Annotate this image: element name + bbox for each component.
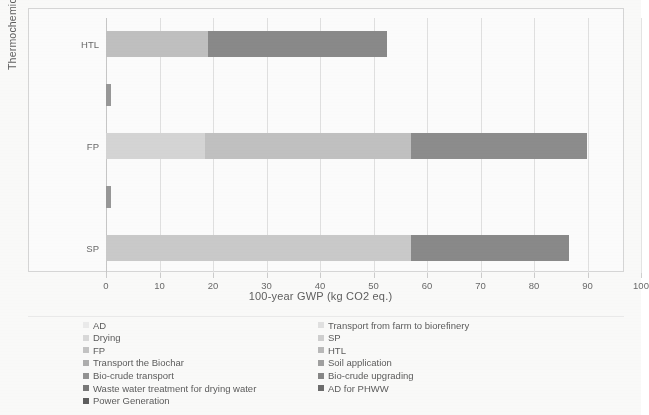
legend-swatch-icon <box>318 373 324 379</box>
y-category-label: SP <box>59 242 99 253</box>
bar-segment <box>205 133 411 159</box>
stacked-bar <box>106 235 569 261</box>
legend-label: Power Generation <box>93 396 170 406</box>
legend-item: Bio-crude transport <box>83 369 256 382</box>
legend-item: Bio-crude upgrading <box>318 369 469 382</box>
legend-item: Waste water treatment for drying water <box>83 382 256 395</box>
legend-label: Transport from farm to biorefinery <box>328 321 469 331</box>
tick-mark <box>641 273 642 278</box>
legend-label: Bio-crude upgrading <box>328 371 414 381</box>
stacked-bar <box>106 31 387 57</box>
legend-item: Transport from farm to biorefinery <box>318 319 469 332</box>
legend-item: HTL <box>318 344 469 357</box>
plot-area: 0102030405060708090100 HTLFPSP <box>106 18 641 273</box>
tick-mark <box>213 273 214 278</box>
y-axis-title: Thermochemical Technology <box>6 0 18 70</box>
legend-label: FP <box>93 346 105 356</box>
legend-item: AD <box>83 319 256 332</box>
bar-segment <box>106 31 208 57</box>
legend-swatch-icon <box>83 360 89 366</box>
legend-column-left: ADDryingFPTransport the BiocharBio-crude… <box>83 319 256 407</box>
legend-swatch-icon <box>318 385 324 391</box>
legend-swatch-icon <box>83 385 89 391</box>
legend: ADDryingFPTransport the BiocharBio-crude… <box>28 316 624 410</box>
tick-mark <box>588 273 589 278</box>
legend-label: Drying <box>93 333 120 343</box>
tick-mark <box>427 273 428 278</box>
legend-swatch-icon <box>83 373 89 379</box>
legend-label: AD <box>93 321 106 331</box>
legend-column-right: Transport from farm to biorefinerySPHTLS… <box>318 319 469 395</box>
tick-mark <box>267 273 268 278</box>
tick-mark <box>106 273 107 278</box>
legend-swatch-icon <box>83 347 89 353</box>
legend-swatch-icon <box>318 322 324 328</box>
gridline <box>588 18 589 273</box>
gridline <box>641 18 642 273</box>
bar-segment <box>411 133 588 159</box>
legend-swatch-icon <box>318 360 324 366</box>
bar-segment <box>106 186 111 208</box>
tick-mark <box>481 273 482 278</box>
legend-item: Drying <box>83 332 256 345</box>
legend-swatch-icon <box>318 347 324 353</box>
bar-segment <box>106 133 205 159</box>
legend-label: Soil application <box>328 358 392 368</box>
legend-label: Waste water treatment for drying water <box>93 384 256 394</box>
legend-item: Transport the Biochar <box>83 357 256 370</box>
legend-label: Transport the Biochar <box>93 358 184 368</box>
stacked-bar <box>106 186 111 208</box>
legend-label: HTL <box>328 346 346 356</box>
legend-item: Power Generation <box>83 395 256 408</box>
bar-segment <box>106 235 411 261</box>
legend-swatch-icon <box>83 398 89 404</box>
legend-item: Soil application <box>318 357 469 370</box>
legend-label: SP <box>328 333 341 343</box>
legend-swatch-icon <box>83 335 89 341</box>
bar-segment <box>106 84 111 106</box>
stacked-bar <box>106 84 111 106</box>
legend-item: SP <box>318 332 469 345</box>
legend-label: AD for PHWW <box>328 384 389 394</box>
y-category-label: HTL <box>59 38 99 49</box>
tick-mark <box>160 273 161 278</box>
tick-mark <box>374 273 375 278</box>
x-axis-title: 100-year GWP (kg CO2 eq.) <box>0 290 641 302</box>
plot-frame: 0102030405060708090100 HTLFPSP <box>28 8 624 272</box>
legend-item: FP <box>83 344 256 357</box>
legend-swatch-icon <box>318 335 324 341</box>
tick-mark <box>320 273 321 278</box>
bar-segment <box>411 235 569 261</box>
y-category-label: FP <box>59 140 99 151</box>
legend-item: AD for PHWW <box>318 382 469 395</box>
stacked-bar <box>106 133 588 159</box>
bar-segment <box>208 31 387 57</box>
legend-swatch-icon <box>83 322 89 328</box>
tick-mark <box>534 273 535 278</box>
legend-label: Bio-crude transport <box>93 371 174 381</box>
